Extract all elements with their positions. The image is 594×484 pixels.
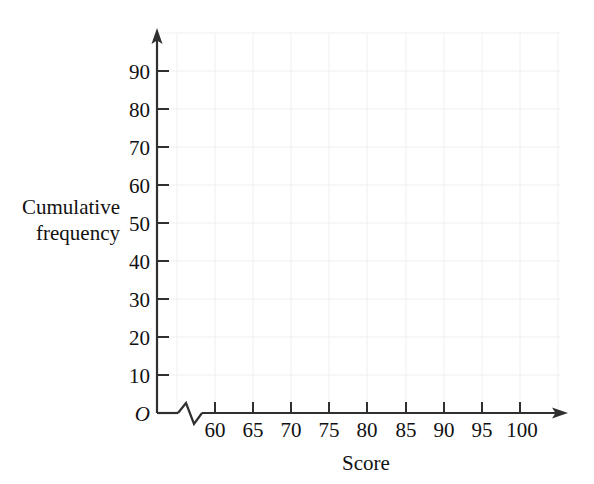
x-tick-label: 85 — [396, 418, 417, 442]
y-tick-label: 40 — [129, 250, 150, 274]
x-tick-label: 80 — [357, 418, 378, 442]
y-tick-label: 80 — [129, 98, 150, 122]
y-axis-title-line1: Cumulative — [22, 195, 120, 219]
x-tick-label: 90 — [434, 418, 455, 442]
x-axis-ticks — [215, 402, 520, 413]
origin-label: O — [135, 402, 150, 426]
x-tick-label: 100 — [506, 418, 538, 442]
x-tick-label: 75 — [319, 418, 340, 442]
y-tick-label: 50 — [129, 212, 150, 236]
y-tick-label: 30 — [129, 288, 150, 312]
y-tick-label: 60 — [129, 174, 150, 198]
y-tick-label: 90 — [129, 60, 150, 84]
y-tick-label: 20 — [129, 326, 150, 350]
y-tick-label: 10 — [129, 364, 150, 388]
y-axis-ticks — [157, 71, 169, 375]
y-axis-title-line2: frequency — [36, 221, 120, 245]
x-tick-label: 70 — [281, 418, 302, 442]
y-axis-tick-labels: 10 20 30 40 50 60 70 80 90 — [129, 60, 150, 388]
x-tick-label: 60 — [205, 418, 226, 442]
chart-canvas: 10 20 30 40 50 60 70 80 90 O — [0, 0, 594, 484]
axis-break-icon — [178, 403, 202, 424]
cumulative-frequency-chart: 10 20 30 40 50 60 70 80 90 O — [0, 0, 594, 484]
grid-lines — [157, 33, 560, 413]
y-tick-label: 70 — [129, 136, 150, 160]
x-tick-label: 95 — [472, 418, 493, 442]
x-axis-title: Score — [342, 451, 390, 475]
y-axis-title: Cumulative frequency — [22, 195, 120, 245]
x-axis-tick-labels: 60 65 70 75 80 85 90 95 100 — [205, 418, 538, 442]
y-axis: 10 20 30 40 50 60 70 80 90 O — [129, 28, 169, 426]
x-tick-label: 65 — [243, 418, 264, 442]
x-axis: 60 65 70 75 80 85 90 95 100 — [157, 402, 568, 442]
